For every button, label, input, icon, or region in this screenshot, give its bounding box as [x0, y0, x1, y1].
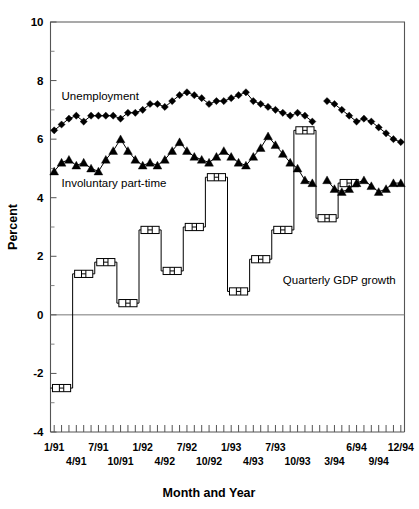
x-axis-tick-label: 12/94 [388, 441, 414, 453]
x-axis-tick-label: 9/94 [368, 455, 389, 467]
unemployment-marker [183, 89, 190, 96]
x-axis-tick-label: 4/93 [243, 455, 264, 467]
x-axis-tick-label: 7/93 [265, 441, 286, 453]
x-axis-tick-label: 1/91 [44, 441, 65, 453]
unemployment-marker [323, 97, 330, 104]
y-axis-tick-label: 10 [31, 16, 44, 28]
unemployment-marker [272, 106, 279, 113]
involuntary-part-time-marker [57, 158, 66, 166]
x-axis-ticks [54, 425, 401, 432]
involuntary-part-time-marker [116, 135, 125, 143]
involuntary-part-time-marker [124, 147, 133, 155]
quarterly-economic-indicators-chart: -4-20246810 1/917/911/927/921/937/936/94… [0, 0, 419, 509]
unemployment-marker [95, 112, 102, 119]
involuntary-part-time-marker [94, 167, 103, 175]
unemployment-marker [264, 103, 271, 110]
x-axis-tick-label: 3/94 [324, 455, 345, 467]
x-axis-tick-label: 1/93 [221, 441, 242, 453]
series-annotation-label: Quarterly GDP growth [283, 274, 396, 286]
y-axis-tick-label: 8 [37, 75, 44, 87]
involuntary-part-time-marker [146, 158, 155, 166]
involuntary-part-time-marker [308, 179, 317, 187]
unemployment-marker [257, 100, 264, 107]
unemployment-marker [132, 109, 139, 116]
y-axis-tick-label: 2 [37, 250, 43, 262]
y-axis-tick-label: -2 [33, 367, 43, 379]
unemployment-marker [360, 115, 367, 122]
y-axis-tick-label: 4 [37, 192, 44, 204]
unemployment-marker [228, 95, 235, 102]
unemployment-marker [287, 112, 294, 119]
x-axis-tick-label: 4/91 [66, 455, 87, 467]
y-axis-title: Percent [6, 203, 20, 250]
x-axis-tick-labels-upper: 1/917/911/927/921/937/936/9412/94 [44, 441, 414, 453]
involuntary-part-time-marker [219, 147, 228, 155]
x-axis-tick-label: 10/93 [284, 455, 310, 467]
chart-container: -4-20246810 1/917/911/927/921/937/936/94… [0, 0, 419, 509]
x-axis-tick-label: 10/92 [196, 455, 222, 467]
involuntary-part-time-marker [337, 188, 346, 196]
x-axis-tick-label: 7/92 [177, 441, 198, 453]
y-axis-tick-label: 6 [37, 133, 43, 145]
x-axis-tick-label: 10/91 [107, 455, 133, 467]
x-axis-tick-label: 6/94 [346, 441, 367, 453]
unemployment-marker [213, 97, 220, 104]
involuntary-part-time-marker [301, 176, 310, 184]
involuntary-part-time-marker [256, 144, 265, 152]
series-annotation-label: Unemployment [62, 90, 140, 102]
series-quarterly-gdp-growth [51, 127, 361, 392]
unemployment-marker [279, 109, 286, 116]
unemployment-marker [397, 138, 404, 145]
involuntary-part-time-marker [175, 138, 184, 146]
y-axis-tick-labels: -4-20246810 [31, 16, 44, 438]
unemployment-marker [294, 109, 301, 116]
x-axis-tick-labels-lower: 4/9110/914/9210/924/9310/933/949/94 [66, 455, 389, 467]
y-axis-ticks [51, 22, 57, 432]
involuntary-part-time-marker [360, 176, 369, 184]
y-axis-tick-label: 0 [37, 309, 43, 321]
unemployment-marker [102, 112, 109, 119]
unemployment-marker [235, 92, 242, 99]
involuntary-part-time-marker [79, 158, 88, 166]
involuntary-part-time-marker [323, 176, 332, 184]
unemployment-marker [110, 112, 117, 119]
series-annotations: UnemploymentInvoluntary part-timeQuarter… [62, 90, 396, 287]
involuntary-part-time-marker [264, 132, 273, 140]
x-axis-tick-label: 1/92 [132, 441, 153, 453]
x-axis-tick-label: 7/91 [88, 441, 109, 453]
x-axis-tick-label: 4/92 [155, 455, 176, 467]
involuntary-part-time-marker [65, 155, 74, 163]
involuntary-part-time-line [54, 136, 312, 183]
x-axis-title: Month and Year [163, 486, 256, 500]
series-annotation-label: Involuntary part-time [62, 177, 167, 189]
unemployment-marker [220, 97, 227, 104]
involuntary-part-time-marker [109, 147, 118, 155]
unemployment-marker [154, 100, 161, 107]
involuntary-part-time-marker [197, 155, 206, 163]
y-axis-tick-label: -4 [33, 426, 44, 438]
unemployment-marker [191, 92, 198, 99]
